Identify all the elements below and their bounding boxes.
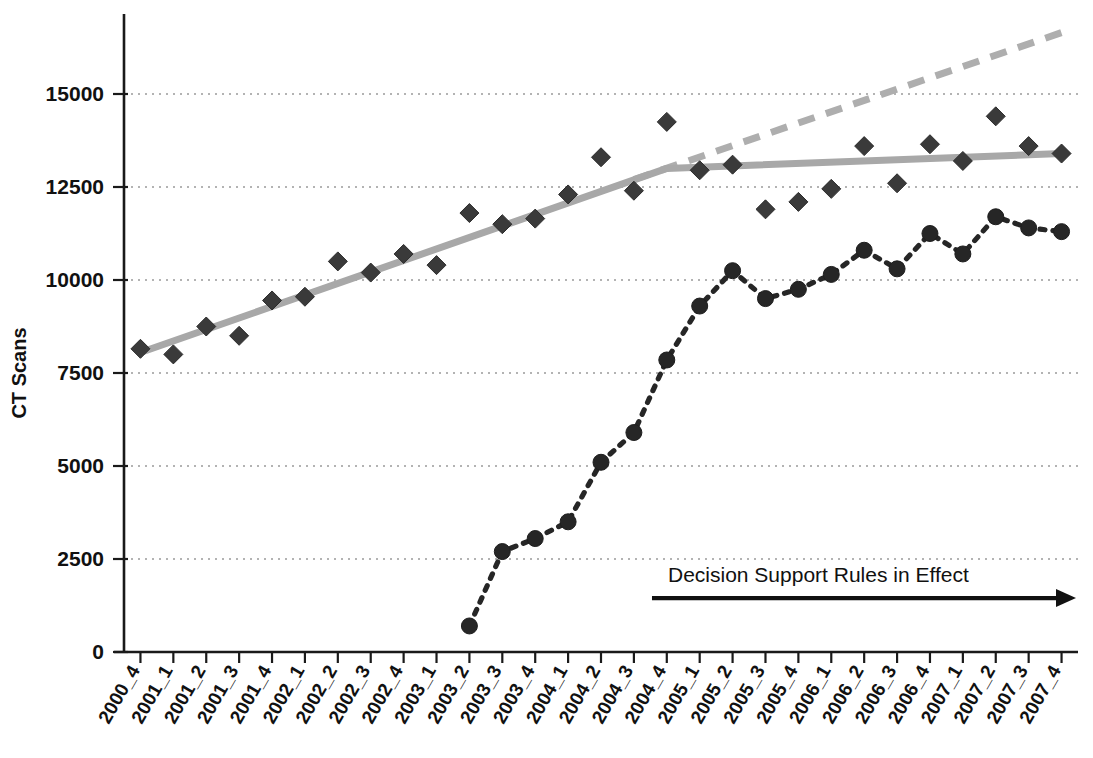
data-point-circle	[659, 352, 675, 368]
y-axis-title: CT Scans	[8, 327, 30, 418]
y-tick-label: 15000	[46, 82, 104, 105]
data-point-circle	[823, 266, 839, 282]
data-point-diamond	[986, 107, 1005, 126]
data-point-diamond	[427, 256, 446, 275]
y-tick-label: 12500	[46, 175, 104, 198]
fitted-trend-polyline	[140, 154, 1061, 353]
data-point-diamond	[723, 155, 742, 174]
y-tick-label: 10000	[46, 268, 104, 291]
data-point-circle	[757, 291, 773, 307]
data-point-diamond	[789, 192, 808, 211]
y-tick-label: 5000	[57, 454, 104, 477]
data-point-circle	[692, 298, 708, 314]
data-point-diamond	[328, 252, 347, 271]
data-point-diamond	[164, 345, 183, 364]
data-point-circle	[856, 242, 872, 258]
data-point-circle	[461, 618, 477, 634]
data-point-diamond	[1052, 144, 1071, 163]
data-point-diamond	[855, 137, 874, 156]
y-tick-label: 2500	[57, 547, 104, 570]
data-point-diamond	[657, 112, 676, 131]
data-point-circle	[922, 226, 938, 242]
data-point-diamond	[230, 326, 249, 345]
data-point-circle	[560, 514, 576, 530]
fitted-trend-line	[140, 154, 1061, 353]
data-point-diamond	[920, 135, 939, 154]
annotation-arrow-head-icon	[1056, 589, 1076, 607]
chart-canvas: 0250050007500100001250015000 2000_42001_…	[0, 0, 1093, 758]
data-point-circle	[889, 261, 905, 277]
data-point-diamond	[888, 174, 907, 193]
data-point-circle	[790, 281, 806, 297]
x-tick-labels: 2000_42001_12001_22001_32001_42002_12002…	[94, 661, 1065, 727]
data-point-diamond	[756, 200, 775, 219]
data-point-circle	[494, 544, 510, 560]
data-point-circle	[988, 209, 1004, 225]
data-point-circle	[593, 454, 609, 470]
data-point-circle	[725, 263, 741, 279]
data-point-diamond	[361, 263, 380, 282]
data-point-diamond	[460, 204, 479, 223]
series-markers-group	[131, 107, 1071, 634]
annotation-group: Decision Support Rules in Effect	[652, 563, 1076, 607]
y-tick-label: 0	[92, 640, 104, 663]
y-tick-labels: 0250050007500100001250015000	[46, 82, 104, 663]
data-point-circle	[1054, 224, 1070, 240]
data-point-diamond	[822, 179, 841, 198]
data-point-diamond	[131, 339, 150, 358]
chart-container: 0250050007500100001250015000 2000_42001_…	[0, 0, 1093, 758]
annotation-label: Decision Support Rules in Effect	[668, 563, 969, 586]
data-point-circle	[626, 425, 642, 441]
data-point-circle	[1021, 220, 1037, 236]
data-point-circle	[955, 246, 971, 262]
data-point-circle	[527, 531, 543, 547]
data-point-diamond	[592, 148, 611, 167]
y-tick-label: 7500	[57, 361, 104, 384]
